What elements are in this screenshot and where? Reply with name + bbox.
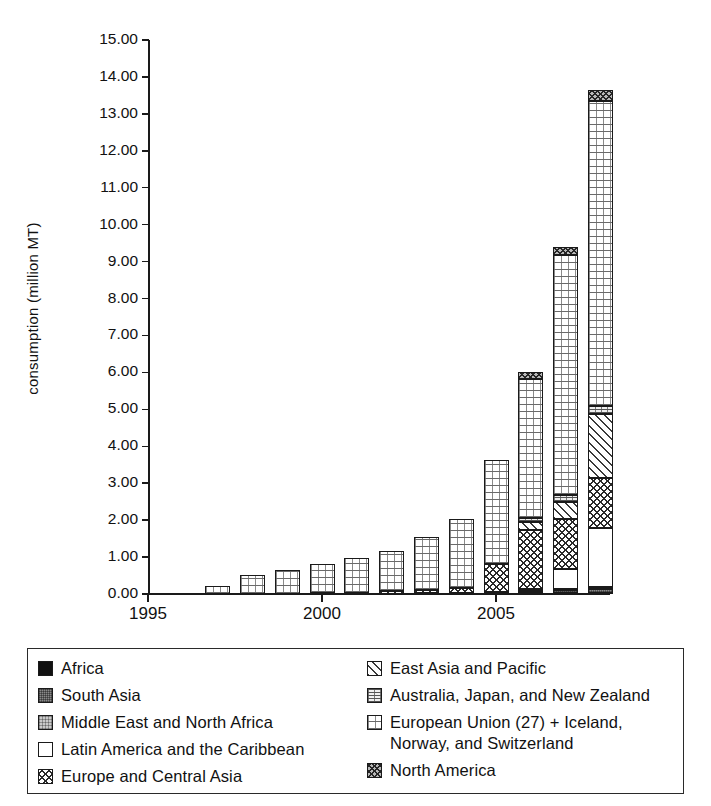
- x-tick-1995: [147, 594, 149, 602]
- chart-canvas: consumption (million MT) 0.001.002.003.0…: [0, 0, 711, 640]
- bar-segment-2008-south-asia: [588, 589, 613, 593]
- bar-segment-2000-european-union-27-iceland-norway-and-switzerland: [310, 564, 335, 593]
- legend-swatch-africa: [38, 661, 53, 676]
- bar-segment-2003-europe-and-central-asia: [414, 590, 439, 593]
- bar-2007: [553, 255, 578, 594]
- bar-segment-2007-australia-japan-and-new-zealand: [553, 495, 578, 502]
- plot-area: [148, 40, 610, 594]
- bar-segment-2006-north-america: [518, 372, 543, 379]
- bar-segment-2006-south-asia: [518, 592, 543, 594]
- bar-segment-2006-europe-and-central-asia: [518, 530, 543, 589]
- bar-segment-2002-european-union-27-iceland-norway-and-switzerland: [379, 551, 404, 591]
- bar-segment-2006-australia-japan-and-new-zealand: [518, 518, 543, 522]
- legend-column-left: AfricaSouth AsiaMiddle East and North Af…: [38, 658, 367, 793]
- bar-1998: [240, 575, 265, 594]
- y-tick-label-9.00: 9.00: [0, 252, 138, 270]
- legend-item: South Asia: [38, 685, 367, 706]
- bar-2001: [344, 558, 369, 594]
- legend-item-label: North America: [390, 760, 496, 781]
- legend-item-label: European Union (27) + Iceland,Norway, an…: [390, 712, 623, 754]
- legend-swatch-europe-central-asia: [38, 769, 53, 784]
- legend-item-label: Africa: [61, 658, 104, 679]
- legend-item-label: Latin America and the Caribbean: [61, 739, 304, 760]
- legend-item: North America: [367, 760, 683, 781]
- bar-segment-2008-latin-america-and-the-caribbean: [588, 528, 613, 587]
- bar-segment-2005-europe-and-central-asia: [484, 564, 509, 592]
- bar-segment-2001-european-union-27-iceland-norway-and-switzerland: [344, 558, 369, 592]
- y-tick-label-11.00: 11.00: [0, 178, 138, 196]
- bar-2003: [414, 537, 439, 594]
- y-tick-label-1.00: 1.00: [0, 547, 138, 565]
- bar-2002: [379, 551, 404, 594]
- bar-segment-2008-australia-japan-and-new-zealand: [588, 406, 613, 414]
- legend-item: East Asia and Pacific: [367, 658, 683, 679]
- bar-segment-2003-european-union-27-iceland-norway-and-switzerland: [414, 537, 439, 590]
- x-tick-label-2005: 2005: [456, 604, 536, 624]
- chart-legend: AfricaSouth AsiaMiddle East and North Af…: [27, 648, 684, 794]
- bar-segment-2007-latin-america-and-the-caribbean: [553, 569, 578, 589]
- bar-segment-2008-middle-east-and-north-africa: [588, 587, 613, 589]
- y-tick-label-4.00: 4.00: [0, 436, 138, 454]
- legend-item: Europe and Central Asia: [38, 766, 367, 787]
- legend-item: Latin America and the Caribbean: [38, 739, 367, 760]
- legend-swatch-australia-japan-new-zealand: [367, 688, 382, 703]
- x-tick-2000: [321, 594, 323, 602]
- legend-swatch-east-asia-pacific: [367, 661, 382, 676]
- bar-segment-2007-south-asia: [553, 590, 578, 593]
- bar-segment-2007-east-asia-and-pacific: [553, 502, 578, 519]
- y-tick-label-13.00: 13.00: [0, 104, 138, 122]
- bar-segment-2008-north-america: [588, 90, 613, 101]
- x-tick-2005: [495, 594, 497, 602]
- bar-segment-2004-european-union-27-iceland-norway-and-switzerland: [449, 519, 474, 588]
- y-tick-label-8.00: 8.00: [0, 289, 138, 307]
- bar-segment-2002-europe-and-central-asia: [379, 591, 404, 593]
- bar-segment-1998-european-union-27-iceland-norway-and-switzerland: [240, 575, 265, 594]
- bar-segment-2008-east-asia-and-pacific: [588, 414, 613, 479]
- bar-segment-2007-europe-and-central-asia: [553, 519, 578, 569]
- legend-item: European Union (27) + Iceland,Norway, an…: [367, 712, 683, 754]
- bar-2006: [518, 372, 543, 594]
- y-tick-label-0.00: 0.00: [0, 584, 138, 602]
- y-tick-label-12.00: 12.00: [0, 141, 138, 159]
- bar-segment-2007-north-america: [553, 247, 578, 255]
- bar-segment-2006-latin-america-and-the-caribbean: [518, 589, 543, 591]
- bar-segment-1999-european-union-27-iceland-norway-and-switzerland: [275, 570, 300, 594]
- legend-swatch-latin-america: [38, 742, 53, 757]
- bar-segment-2006-european-union-27-iceland-norway-and-switzerland: [518, 379, 543, 518]
- legend-item: Africa: [38, 658, 367, 679]
- legend-swatch-european-union: [367, 715, 382, 730]
- y-tick-label-2.00: 2.00: [0, 510, 138, 528]
- y-tick-label-10.00: 10.00: [0, 215, 138, 233]
- legend-swatch-south-asia: [38, 688, 53, 703]
- legend-item-label: Australia, Japan, and New Zealand: [390, 685, 650, 706]
- bar-segment-2005-european-union-27-iceland-norway-and-switzerland: [484, 460, 509, 564]
- legend-item-label-continued: Norway, and Switzerland: [390, 733, 623, 754]
- x-tick-label-2000: 2000: [282, 604, 362, 624]
- legend-item-label: East Asia and Pacific: [390, 658, 546, 679]
- bar-segment-1997-european-union-27-iceland-norway-and-switzerland: [205, 586, 230, 594]
- legend-item-label: Europe and Central Asia: [61, 766, 242, 787]
- bar-segment-2008-europe-and-central-asia: [588, 478, 613, 528]
- legend-item-label: South Asia: [61, 685, 141, 706]
- bar-1997: [205, 586, 230, 594]
- legend-item: Australia, Japan, and New Zealand: [367, 685, 683, 706]
- bar-segment-2008-european-union-27-iceland-norway-and-switzerland: [588, 101, 613, 406]
- bar-1999: [275, 570, 300, 594]
- bar-segment-2006-east-asia-and-pacific: [518, 522, 543, 530]
- y-tick-label-3.00: 3.00: [0, 473, 138, 491]
- bar-2000: [310, 564, 335, 594]
- y-tick-label-5.00: 5.00: [0, 399, 138, 417]
- x-tick-label-1995: 1995: [108, 604, 188, 624]
- bar-2008: [588, 90, 613, 594]
- legend-item-label: Middle East and North Africa: [61, 712, 273, 733]
- y-tick-label-6.00: 6.00: [0, 362, 138, 380]
- y-tick-label-14.00: 14.00: [0, 67, 138, 85]
- bar-2004: [449, 519, 474, 594]
- y-tick-label-7.00: 7.00: [0, 325, 138, 343]
- bar-2005: [484, 460, 509, 594]
- legend-swatch-north-america: [367, 763, 382, 778]
- legend-swatch-middle-east-north-africa: [38, 715, 53, 730]
- bar-segment-2007-european-union-27-iceland-norway-and-switzerland: [553, 255, 578, 495]
- y-tick-label-15.00: 15.00: [0, 30, 138, 48]
- legend-item: Middle East and North Africa: [38, 712, 367, 733]
